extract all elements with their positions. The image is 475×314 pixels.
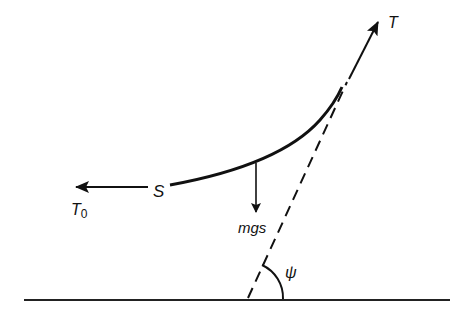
angle-psi-label: ψ [285, 264, 297, 281]
cable-diagram: T T0 S mgs ψ [0, 0, 475, 314]
angle-arc [262, 265, 283, 299]
weight-label: mgs [238, 219, 267, 236]
tension-T-label: T [388, 14, 399, 31]
tension-T0-label: T0 [71, 201, 88, 221]
point-S-label: S [153, 182, 165, 201]
tension-T-arrow [349, 22, 378, 79]
